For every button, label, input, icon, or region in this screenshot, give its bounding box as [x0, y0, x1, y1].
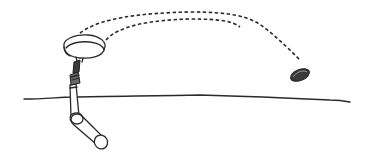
trajectory-arc-inner	[106, 19, 240, 40]
sling-grip-icon	[70, 60, 80, 85]
stone-icon	[289, 66, 312, 84]
illustration-svg	[0, 0, 370, 163]
sling-loop-icon	[64, 35, 105, 62]
illustration-canvas: Line drawing of a gloved/armored hand ho…	[0, 0, 370, 163]
trajectory-arc-outer	[80, 12, 300, 60]
arm-icon	[70, 84, 110, 151]
